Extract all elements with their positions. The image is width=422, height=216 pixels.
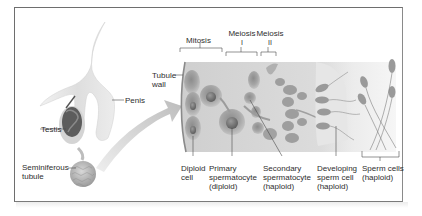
label-tubule-wall-1: Tubule — [152, 71, 176, 80]
header-meiosis-2-line1: Meiosis — [256, 29, 284, 38]
header-meiosis-2-line2: II — [256, 38, 284, 47]
header-mitosis: Mitosis — [186, 36, 211, 45]
seminiferous-tubule-illustration — [70, 148, 96, 187]
label-seminiferous-tubule-2: tubule — [22, 172, 44, 181]
diploid-cells — [184, 70, 201, 140]
label-tubule-wall-2: wall — [152, 80, 166, 89]
label-penis: Penis — [125, 96, 145, 105]
header-meiosis-1-line2: I — [228, 38, 256, 47]
header-meiosis-1-line1: Meiosis — [228, 29, 256, 38]
label-testis: Testis — [41, 125, 61, 134]
label-seminiferous-tubule-1: Seminiferous — [22, 163, 69, 172]
